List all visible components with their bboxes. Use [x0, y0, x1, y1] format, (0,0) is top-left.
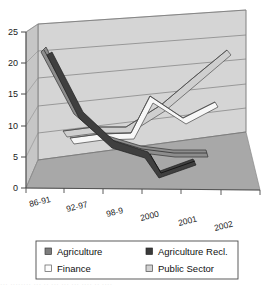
- x-tick-label: 98-9: [105, 205, 124, 219]
- plot-area-3d: [26, 10, 260, 190]
- x-tick-label: 2001: [177, 214, 198, 228]
- caption-text: ··· ········ ··· ·· ··· ··· ··· ···· ·· …: [0, 280, 267, 289]
- legend-swatch-icon: [146, 248, 153, 255]
- y-tick-label: 0: [13, 183, 18, 193]
- x-axis: 86-91 92-97 98-9 2000 2001 2002: [26, 188, 260, 233]
- legend-item-label: Public Sector: [158, 263, 214, 274]
- legend-item-agriculture-recl[interactable]: Agriculture Recl.: [146, 246, 228, 257]
- legend-swatch-icon: [45, 265, 52, 272]
- caption-strip: ··· ········ ··· ·· ··· ··· ··· ···· ·· …: [0, 280, 267, 289]
- y-tick-label: 20: [8, 58, 18, 68]
- y-tick-label: 25: [8, 27, 18, 37]
- legend: Agriculture Agriculture Recl. Finance Pu…: [36, 241, 238, 279]
- legend-item-label: Agriculture Recl.: [158, 246, 228, 257]
- x-tick-label: 86-91: [28, 194, 52, 209]
- legend-item-label: Agriculture: [57, 246, 102, 257]
- x-tick-label: 2000: [139, 209, 160, 223]
- legend-swatch-icon: [146, 265, 153, 272]
- y-tick-label: 15: [8, 89, 18, 99]
- three-d-line-chart: 25 20 15 10 5 0: [0, 0, 267, 289]
- legend-item-label: Finance: [57, 263, 91, 274]
- x-tick-label: 92-97: [65, 199, 89, 214]
- y-axis: 25 20 15 10 5 0: [8, 27, 26, 193]
- legend-swatch-icon: [45, 248, 52, 255]
- chart-container: 25 20 15 10 5 0: [0, 0, 267, 289]
- y-tick-label: 10: [8, 121, 18, 131]
- x-tick-label: 2002: [213, 219, 234, 233]
- y-tick-label: 5: [13, 152, 18, 162]
